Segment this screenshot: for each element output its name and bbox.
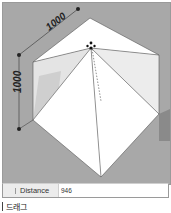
measurements-input[interactable]: 946	[58, 184, 168, 197]
measurements-label: Distance	[20, 186, 58, 195]
caption-marker	[2, 202, 3, 211]
3d-viewport[interactable]: 1000 1000	[2, 2, 171, 185]
shadow	[159, 109, 170, 141]
caption: 드래그	[2, 201, 27, 212]
caption-text: 드래그	[6, 201, 27, 212]
dimension-left-label: 1000	[12, 70, 23, 93]
pyramid-model[interactable]: 1000 1000	[3, 3, 170, 184]
measurements-separator	[15, 188, 16, 194]
measurements-bar: Distance 946	[2, 183, 169, 198]
dimension-top-label: 1000	[44, 10, 69, 33]
